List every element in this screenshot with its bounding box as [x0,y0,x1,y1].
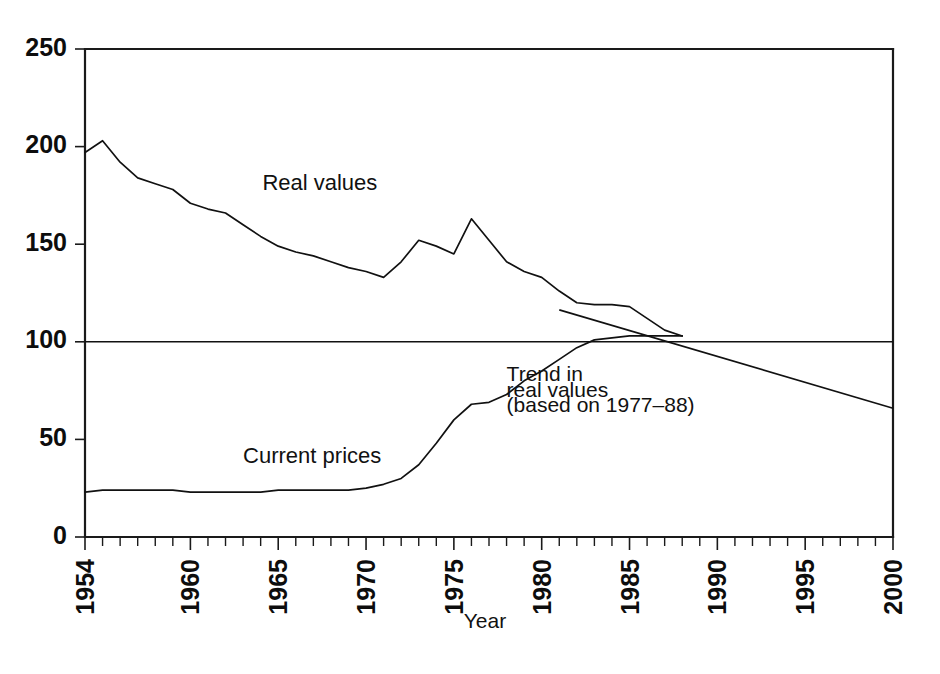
y-tick-label-0: 0 [53,521,67,549]
y-tick-label-50: 50 [39,423,67,451]
y-tick-label-200: 200 [25,130,67,158]
real-values-label: Real values [262,170,377,195]
current-prices-label: Current prices [243,443,381,468]
x-tick-label-1990: 1990 [703,559,731,615]
x-tick-label-1985: 1985 [616,559,644,615]
y-tick-label-150: 150 [25,228,67,256]
x-tick-label-2000: 2000 [879,559,907,615]
x-tick-label-1960: 1960 [176,559,204,615]
trend-label-line-3: (based on 1977–88) [507,393,695,416]
x-tick-label-1995: 1995 [791,559,819,615]
y-tick-label-100: 100 [25,325,67,353]
x-tick-label-1980: 1980 [528,559,556,615]
x-tick-label-1970: 1970 [352,559,380,615]
x-tick-label-1975: 1975 [440,559,468,615]
y-tick-label-250: 250 [25,33,67,61]
x-tick-label-1965: 1965 [264,559,292,615]
chart-container: 250 200 150 100 50 0 1954196019651970197… [0,0,940,674]
x-tick-label-1954: 1954 [71,559,99,615]
x-axis-title: Year [464,609,506,632]
line-chart: 250 200 150 100 50 0 1954196019651970197… [0,0,940,674]
